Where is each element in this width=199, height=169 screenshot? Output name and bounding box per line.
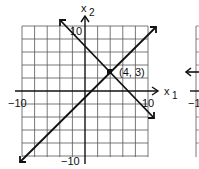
- graph: (4, 3) x 2 x 1 −10 10 10 −10 −1: [0, 0, 199, 169]
- partial-tick: −1: [188, 97, 199, 109]
- x-min-tick: −10: [8, 97, 27, 109]
- axes: [15, 16, 158, 164]
- x-max-tick: 10: [142, 97, 154, 109]
- y-axis-label: x: [81, 2, 87, 14]
- x-axis-label: x: [164, 85, 170, 97]
- intersection-point: [107, 69, 112, 74]
- x-axis-sub: 1: [172, 90, 178, 101]
- y-axis-sub: 2: [89, 7, 95, 18]
- point-label: (4, 3): [119, 66, 145, 78]
- y-max-tick: 10: [70, 25, 82, 37]
- y-min-tick: −10: [61, 155, 80, 167]
- adjacent-graph-partial: −1: [186, 26, 199, 157]
